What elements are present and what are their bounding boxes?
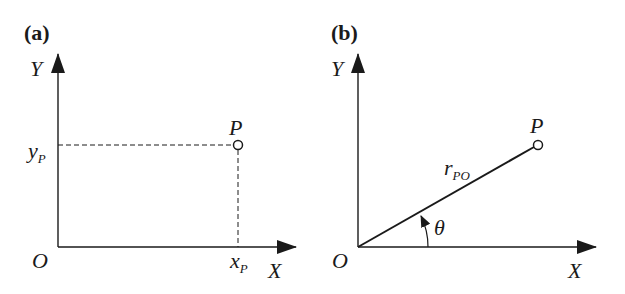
point-p-label-b: P (529, 113, 543, 138)
origin-label-a: O (32, 248, 48, 273)
coordinate-diagrams: (a) Y X O P yP xP (b) Y X O P rPO (0, 0, 625, 294)
x-axis-label-a: X (267, 258, 283, 283)
y-axis-label-a: Y (30, 56, 45, 81)
panel-a: (a) Y X O P yP xP (24, 20, 296, 283)
x-axis-label-b: X (567, 258, 583, 283)
y-coordinate-label: yP (26, 138, 46, 166)
y-axis-label-b: Y (331, 56, 346, 81)
radius-label: rPO (444, 155, 471, 183)
panel-a-label: (a) (24, 20, 50, 45)
angle-arc (421, 216, 428, 247)
origin-label-b: O (332, 248, 348, 273)
panel-b: (b) Y X O P rPO θ (331, 20, 596, 283)
point-p-b (534, 141, 543, 150)
point-p-a (234, 141, 243, 150)
point-p-label-a: P (228, 115, 242, 140)
angle-label: θ (434, 215, 445, 240)
x-coordinate-label: xP (229, 248, 248, 276)
panel-b-label: (b) (331, 20, 358, 45)
